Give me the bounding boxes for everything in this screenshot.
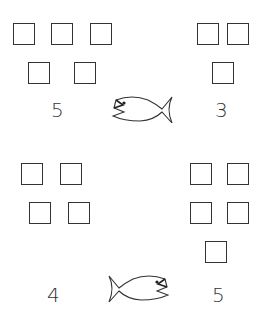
square [197, 23, 219, 45]
square [60, 163, 82, 185]
square [21, 163, 43, 185]
fish-comparison-icon [110, 92, 174, 126]
count-label: 4 [47, 285, 60, 305]
square [190, 202, 212, 224]
square [74, 62, 96, 84]
square [51, 23, 73, 45]
count-label: 5 [51, 100, 64, 120]
comparison-worksheet: 5 3 4 5 [0, 0, 261, 312]
count-label: 3 [215, 100, 228, 120]
square [205, 241, 227, 263]
square [212, 62, 234, 84]
square [28, 62, 50, 84]
square [190, 163, 212, 185]
square [13, 23, 35, 45]
square [227, 23, 249, 45]
square [29, 202, 51, 224]
square [90, 23, 112, 45]
fish-comparison-icon [107, 271, 171, 305]
square [227, 202, 249, 224]
square [227, 163, 249, 185]
count-label: 5 [212, 285, 225, 305]
square [68, 202, 90, 224]
